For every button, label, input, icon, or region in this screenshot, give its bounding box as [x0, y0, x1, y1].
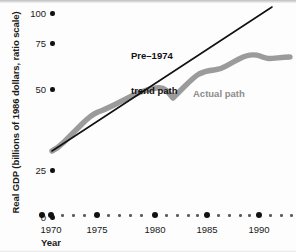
x-dot-major-1990: [256, 212, 262, 218]
x-dot-major-1980: [152, 212, 158, 218]
x-dot-minor: [290, 214, 293, 217]
x-tick-label-1975: 1975: [86, 224, 107, 235]
x-dot-minor: [269, 214, 272, 217]
x-tick-label-1985: 1985: [196, 224, 217, 235]
x-dot-minor: [217, 214, 220, 217]
x-tick-label-1980: 1980: [144, 224, 165, 235]
x-dot-minor: [280, 214, 283, 217]
x-dot-minor: [176, 214, 179, 217]
x-dot-major-1975: [94, 212, 100, 218]
trend-path-annotation: Pre–1974 trend path: [131, 27, 177, 119]
x-dot-minor: [140, 214, 143, 217]
x-dot-major-origin: [39, 212, 45, 218]
chart-figure: Real GDP (billions of 1986 dollars, rati…: [0, 0, 296, 252]
x-dot-minor: [248, 214, 251, 217]
x-dot-minor: [165, 214, 168, 217]
trend-path-annotation-line2: trend path: [131, 85, 177, 97]
x-dot-minor: [228, 214, 231, 217]
x-axis-title: Year: [41, 237, 61, 248]
x-dot-major-1985: [204, 212, 210, 218]
actual-path-annotation: Actual path: [193, 88, 245, 100]
x-dot-minor: [61, 214, 64, 217]
x-dot-minor: [187, 214, 190, 217]
x-dot-minor: [72, 214, 75, 217]
x-tick-label-1990: 1990: [248, 224, 269, 235]
x-dot-minor: [239, 214, 242, 217]
x-dot-minor: [129, 214, 132, 217]
x-dot-major-1970: [48, 212, 54, 218]
x-dot-minor: [118, 214, 121, 217]
x-tick-label-1970: 1970: [40, 224, 61, 235]
x-dot-minor: [107, 214, 110, 217]
trend-path-annotation-line1: Pre–1974: [131, 50, 177, 62]
x-dot-minor: [196, 214, 199, 217]
x-dot-minor: [83, 214, 86, 217]
